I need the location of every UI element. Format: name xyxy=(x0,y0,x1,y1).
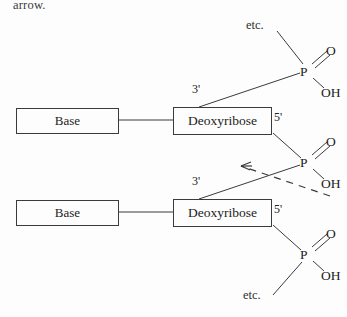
bond-5prime-lower xyxy=(273,225,301,250)
deoxyribose-box-upper: Deoxyribose xyxy=(173,107,272,135)
phosphorus-label-bottom: P xyxy=(300,247,308,263)
oxygen-label-middle: O xyxy=(326,134,336,150)
five-prime-label-upper: 5' xyxy=(274,110,282,125)
base-box-upper-label: Base xyxy=(55,113,80,129)
etc-label-bottom: etc. xyxy=(243,288,261,303)
caption-fragment: arrow. xyxy=(13,0,46,13)
three-prime-label-lower: 3' xyxy=(192,174,200,189)
bond-p-o-double-top-a xyxy=(312,51,327,64)
bond-5prime-upper xyxy=(273,133,301,158)
hydroxyl-label-top: OH xyxy=(321,85,341,101)
bond-etc-bottom xyxy=(273,262,302,295)
bond-p-o-double-bot-a xyxy=(312,234,327,247)
bond-3prime-upper xyxy=(199,73,300,107)
figure-canvas: arrow. Base Deoxyribose 3' 5' etc. P O O… xyxy=(0,0,347,317)
deoxyribose-box-lower: Deoxyribose xyxy=(173,199,272,227)
hydroxyl-label-bottom: OH xyxy=(321,268,341,284)
bond-p-o-double-mid-a xyxy=(312,142,327,155)
oxygen-label-bottom: O xyxy=(326,226,336,242)
deoxyribose-box-lower-label: Deoxyribose xyxy=(188,205,257,221)
phosphorus-label-top: P xyxy=(300,64,308,80)
three-prime-label-upper: 3' xyxy=(192,82,200,97)
etc-label-top: etc. xyxy=(246,18,264,33)
base-box-lower: Base xyxy=(16,200,119,226)
five-prime-label-lower: 5' xyxy=(274,202,282,217)
phosphorus-label-middle: P xyxy=(300,155,308,171)
bond-etc-top xyxy=(277,31,303,64)
hydroxyl-label-middle: OH xyxy=(321,176,341,192)
base-box-lower-label: Base xyxy=(55,205,80,221)
diagram-artwork xyxy=(0,0,347,317)
annotation-dashed-line xyxy=(241,166,330,196)
oxygen-label-top: O xyxy=(326,43,336,59)
base-box-upper: Base xyxy=(16,108,119,134)
deoxyribose-box-upper-label: Deoxyribose xyxy=(188,113,257,129)
